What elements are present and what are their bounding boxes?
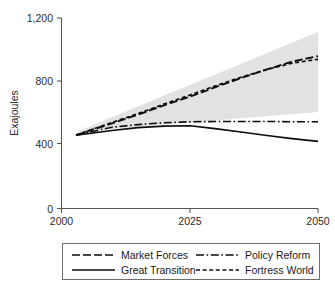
legend-label-great-transition: Great Transition [121,264,196,276]
energy-scenarios-chart: 1,200 800 400 0 2000 2025 2050 Exajoules… [0,0,335,282]
y-tick-label-1200: 1,200 [27,12,53,24]
chart-figure: 1,200 800 400 0 2000 2025 2050 Exajoules… [0,0,335,282]
legend-label-policy-reform: Policy Reform [245,249,311,261]
y-axis-title: Exajoules [8,90,20,136]
legend-label-fortress-world: Fortress World [245,264,314,276]
x-tick-label-2050: 2050 [306,215,330,227]
uncertainty-band [76,32,318,132]
x-tick-label-2025: 2025 [178,215,202,227]
y-tick-label-0: 0 [47,203,53,215]
y-tick-label-800: 800 [35,75,53,87]
legend-label-market-forces: Market Forces [121,249,188,261]
x-tick-label-2000: 2000 [50,215,74,227]
y-tick-label-400: 400 [35,138,53,150]
